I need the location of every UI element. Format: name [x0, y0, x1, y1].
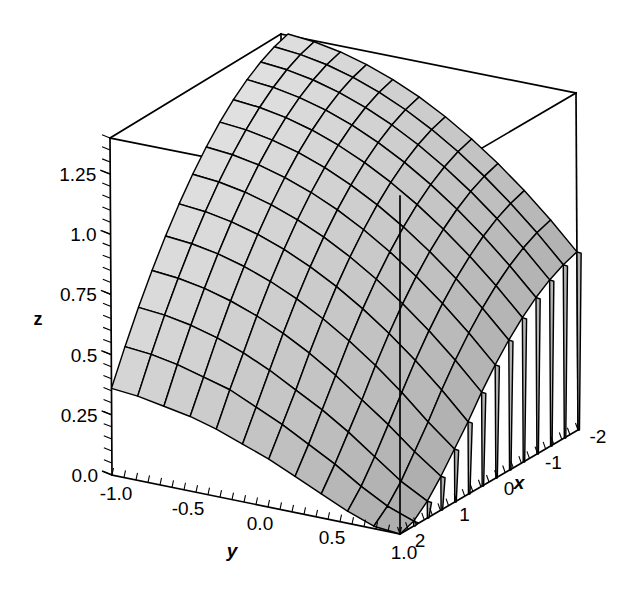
surface-curtain-strip — [509, 340, 513, 470]
z-minor-tick — [102, 135, 110, 138]
x-minor-tick — [543, 442, 546, 449]
y-minor-tick — [148, 475, 150, 482]
x-minor-tick — [567, 428, 570, 435]
z-minor-tick — [103, 339, 111, 342]
x-tick-label: 0 — [504, 478, 515, 499]
y-tick-label: -0.5 — [172, 498, 205, 519]
y-minor-tick — [268, 500, 270, 507]
plot-canvas: 0.00.250.50.751.01.25-1.0-0.50.00.51.0-2… — [0, 0, 639, 590]
z-minor-tick — [104, 460, 112, 463]
z-minor-tick — [103, 219, 111, 222]
surface-curtain-strip — [550, 280, 554, 446]
y-tick-label: -1.0 — [100, 483, 133, 504]
y-minor-tick — [208, 488, 210, 495]
x-minor-tick — [478, 480, 481, 487]
z-tick-label: 0.25 — [61, 405, 98, 426]
z-major-tick — [101, 290, 111, 294]
x-minor-tick — [487, 475, 490, 482]
surface-curtain-strip — [482, 392, 486, 486]
x-minor-tick — [559, 432, 562, 439]
x-tick-label: 1 — [459, 504, 470, 525]
z-minor-tick — [103, 243, 111, 246]
y-minor-tick — [196, 485, 198, 492]
z-minor-tick — [104, 400, 112, 403]
z-major-tick — [101, 230, 111, 234]
y-minor-tick — [172, 480, 174, 487]
z-minor-tick — [102, 195, 110, 198]
z-major-tick — [102, 411, 112, 415]
y-minor-tick — [340, 515, 342, 522]
y-minor-tick — [220, 490, 222, 497]
y-tick-label: 0.5 — [319, 527, 345, 548]
y-axis-title: y — [226, 540, 239, 561]
surface-mesh — [111, 34, 581, 534]
z-minor-tick — [102, 147, 110, 150]
z-tick-label: 0.75 — [60, 284, 97, 305]
x-axis-title: x — [513, 472, 526, 493]
y-minor-tick — [304, 507, 306, 514]
z-minor-tick — [103, 255, 111, 258]
y-tick-label: 0.0 — [247, 513, 273, 534]
y-minor-tick — [256, 498, 258, 505]
z-tick-label: 0.0 — [72, 465, 98, 486]
x-minor-tick — [503, 466, 506, 473]
x-minor-tick — [519, 456, 522, 463]
z-axis-title: z — [34, 309, 43, 329]
z-minor-tick — [104, 436, 112, 439]
z-minor-tick — [102, 159, 110, 162]
z-minor-tick — [102, 207, 110, 210]
z-minor-tick — [103, 267, 111, 270]
z-major-tick — [102, 471, 112, 475]
y-tick-label: 1.0 — [391, 542, 417, 563]
x-minor-tick — [462, 489, 465, 496]
surface-curtain-strip — [536, 298, 540, 454]
z-minor-tick — [103, 327, 111, 330]
z-minor-tick — [104, 424, 112, 427]
z-minor-tick — [104, 448, 112, 451]
z-major-tick — [100, 170, 110, 174]
surface-plot-figure: 0.00.250.50.751.01.25-1.0-0.50.00.51.0-2… — [0, 0, 639, 590]
x-minor-tick — [446, 499, 449, 506]
y-minor-tick — [184, 483, 186, 490]
x-minor-tick — [527, 451, 530, 458]
z-tick-label: 0.5 — [71, 345, 97, 366]
x-tick-label: 2 — [415, 530, 426, 551]
x-minor-tick — [422, 513, 425, 520]
x-tick-label: -2 — [590, 426, 607, 447]
y-minor-tick — [136, 473, 138, 480]
y-minor-tick — [232, 493, 234, 500]
z-minor-tick — [103, 363, 111, 366]
z-major-tick — [101, 351, 111, 355]
y-minor-tick — [352, 517, 354, 524]
z-minor-tick — [103, 303, 111, 306]
y-minor-tick — [244, 495, 246, 502]
z-minor-tick — [103, 376, 111, 379]
y-minor-tick — [280, 502, 282, 509]
y-minor-tick — [124, 470, 126, 477]
z-minor-tick — [103, 315, 111, 318]
surface-curtain-strip — [454, 449, 458, 502]
z-tick-label: 1.25 — [59, 164, 96, 185]
surface-curtain-strip — [441, 476, 445, 510]
z-minor-tick — [103, 279, 111, 282]
surface-curtain-strip — [577, 252, 581, 430]
surface-curtain-strip — [468, 422, 472, 494]
z-tick-label: 1.0 — [70, 224, 96, 245]
y-minor-tick — [292, 505, 294, 512]
surface-curtain-strip — [522, 318, 526, 462]
y-minor-tick — [160, 478, 162, 485]
y-minor-tick — [316, 510, 318, 517]
x-minor-tick — [438, 503, 441, 510]
y-minor-tick — [328, 512, 330, 519]
surface-curtain-strip — [563, 265, 567, 438]
z-minor-tick — [104, 388, 112, 391]
z-minor-tick — [102, 183, 110, 186]
surface-curtain-strip — [495, 365, 499, 478]
x-tick-label: -1 — [545, 452, 562, 473]
